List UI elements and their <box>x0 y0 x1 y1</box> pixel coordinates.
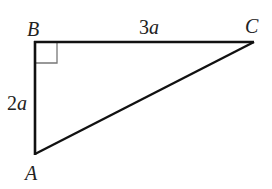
side-label-ab-var: a <box>17 92 27 114</box>
side-ac <box>35 42 254 154</box>
side-label-bc: 3a <box>139 16 159 38</box>
side-label-bc-var: a <box>149 16 159 38</box>
right-angle-marker <box>35 42 57 63</box>
side-label-ab: 2a <box>7 92 27 114</box>
vertex-label-a: A <box>23 162 38 184</box>
triangle-diagram: B C A 3a 2a <box>0 0 272 189</box>
side-label-bc-number: 3 <box>139 16 149 38</box>
vertex-label-b: B <box>27 18 39 40</box>
vertex-label-c: C <box>245 15 259 37</box>
side-label-ab-number: 2 <box>7 92 17 114</box>
